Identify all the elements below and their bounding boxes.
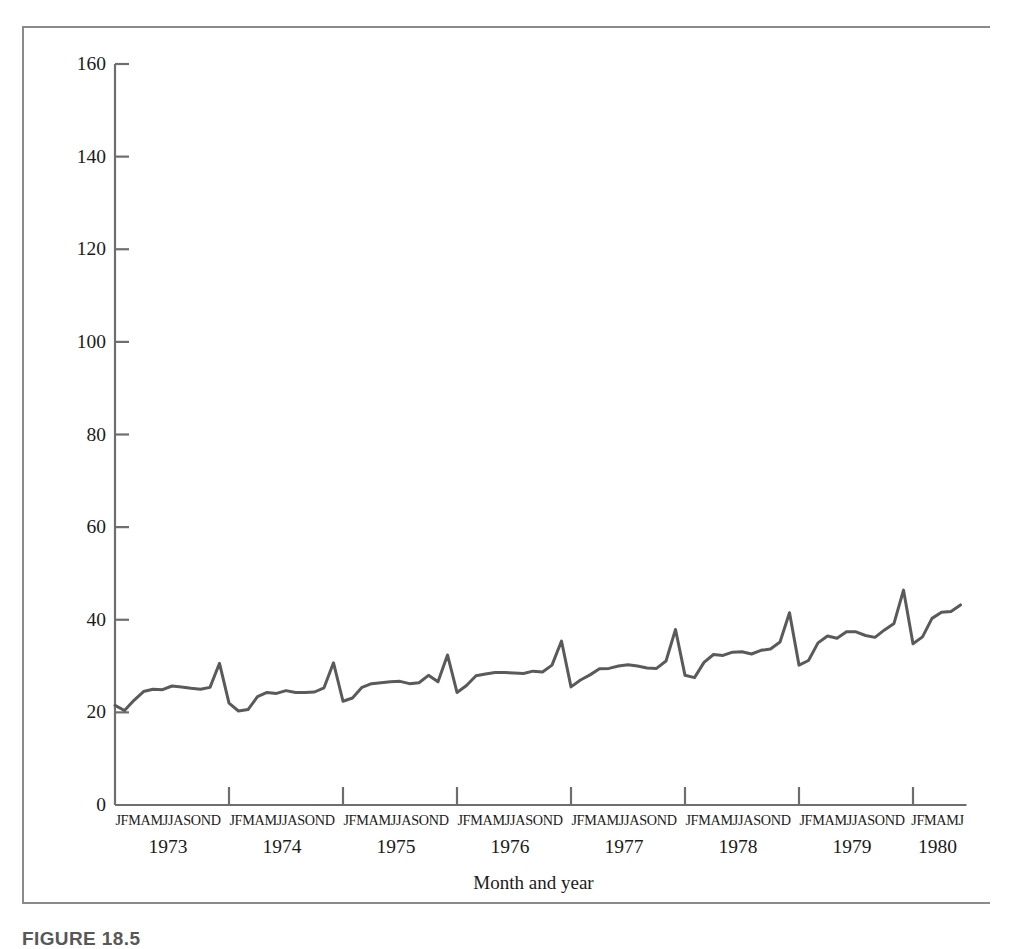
- chart-plot-area: Domestic retail sales ($ millions) 02040…: [0, 0, 1012, 949]
- y-axis-tick-label: 40: [60, 609, 106, 631]
- y-axis-tick-marks: [115, 64, 129, 712]
- x-axis-year-label: 1974: [263, 836, 302, 858]
- x-axis-year-label: 1979: [833, 836, 872, 858]
- retail-sales-series-line: [115, 590, 961, 711]
- x-axis-month-letters: JFMAMJJASOND: [225, 812, 339, 829]
- x-axis-year-label: 1978: [719, 836, 758, 858]
- y-axis-tick-label: 80: [60, 424, 106, 446]
- x-axis-year-label: 1976: [491, 836, 530, 858]
- x-axis-month-letters: JFMAMJJASOND: [567, 812, 681, 829]
- x-axis-month-letters: JFMAMJJASOND: [795, 812, 909, 829]
- y-axis-tick-label: 100: [60, 331, 106, 353]
- x-axis-month-labels: JFMAMJJASONDJFMAMJJASONDJFMAMJJASONDJFMA…: [0, 812, 1012, 832]
- y-axis-tick-label: 120: [60, 238, 106, 260]
- x-axis-month-letters: JFMAMJJASOND: [339, 812, 453, 829]
- figure-caption: FIGURE 18.5: [22, 928, 140, 949]
- x-axis-year-label: 1973: [149, 836, 188, 858]
- x-axis-month-letters: JFMAMJJASOND: [453, 812, 567, 829]
- x-axis-month-letters: JFMAMJJASOND: [111, 812, 225, 829]
- chart-axes: [115, 64, 967, 805]
- x-axis-title-wrapper: Month and year: [0, 872, 1012, 894]
- y-axis-tick-label: 140: [60, 146, 106, 168]
- y-axis-tick-label: 160: [60, 53, 106, 75]
- y-axis-tick-label: 60: [60, 516, 106, 538]
- x-axis-title: Month and year: [473, 872, 593, 893]
- x-axis-year-label: 1975: [377, 836, 416, 858]
- x-axis-year-label: 1980: [918, 836, 957, 858]
- line-chart-svg: [0, 0, 1012, 949]
- x-axis-year-label: 1977: [605, 836, 644, 858]
- x-axis-tick-marks: [229, 787, 913, 805]
- x-axis-year-labels: 19731974197519761977197819791980: [0, 836, 1012, 862]
- y-axis-tick-label: 20: [60, 701, 106, 723]
- x-axis-month-letters: JFMAMJJASOND: [681, 812, 795, 829]
- x-axis-month-letters: JFMAMJ: [909, 812, 966, 829]
